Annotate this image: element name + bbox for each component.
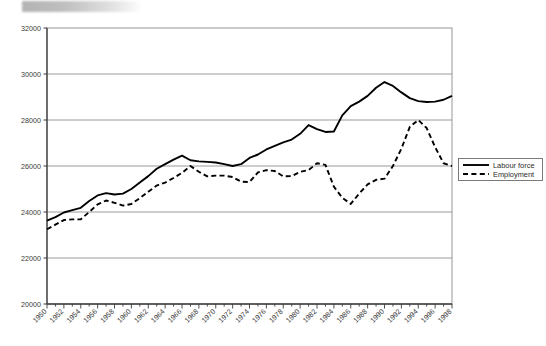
- legend-label-employment: Employment: [493, 170, 534, 179]
- y-tick-label: 26000: [21, 162, 41, 171]
- x-tick-label: 1976: [250, 307, 268, 325]
- x-tick-label: 1966: [166, 307, 184, 325]
- x-tick-label: 1990: [368, 307, 386, 325]
- x-tick-label: 1950: [31, 307, 49, 325]
- x-tick-label: 1954: [64, 307, 82, 325]
- x-tick-label: 1994: [402, 307, 420, 325]
- y-tick-label: 22000: [21, 254, 41, 263]
- x-tick-label: 1964: [149, 307, 167, 325]
- y-tick-label: 20000: [21, 300, 41, 309]
- x-tick-label: 1968: [183, 307, 201, 325]
- chart-svg: 20000220002400026000280003000032000 1950…: [0, 0, 546, 346]
- x-tick-label: 1988: [351, 307, 369, 325]
- chart-legend: Labour force Employment: [459, 159, 543, 181]
- y-tick-label: 30000: [21, 70, 41, 79]
- x-tick-label: 1960: [115, 307, 133, 325]
- x-tick-label: 1986: [334, 307, 352, 325]
- x-tick-label: 1962: [132, 307, 150, 325]
- x-tick-label: 1974: [233, 307, 251, 325]
- x-tick-label: 1992: [385, 307, 403, 325]
- x-tick-label: 1952: [48, 307, 66, 325]
- y-tick-label: 28000: [21, 116, 41, 125]
- x-tick-label: 1958: [98, 307, 116, 325]
- x-tick-label: 1984: [318, 307, 336, 325]
- legend-label-labour-force: Labour force: [493, 161, 535, 170]
- x-tick-label: 1970: [199, 307, 217, 325]
- x-tick-label: 1972: [216, 307, 234, 325]
- x-tick-label: 1996: [419, 307, 437, 325]
- y-axis-ticks: 20000220002400026000280003000032000: [21, 24, 47, 309]
- x-tick-label: 1982: [301, 307, 319, 325]
- y-tick-label: 24000: [21, 208, 41, 217]
- y-tick-label: 32000: [21, 24, 41, 33]
- x-tick-label: 1980: [284, 307, 302, 325]
- x-axis-ticks: 1950195219541956195819601962196419661968…: [31, 304, 454, 325]
- x-tick-label: 1978: [267, 307, 285, 325]
- line-chart: 20000220002400026000280003000032000 1950…: [0, 0, 546, 346]
- x-tick-label: 1998: [436, 307, 454, 325]
- x-tick-label: 1956: [81, 307, 99, 325]
